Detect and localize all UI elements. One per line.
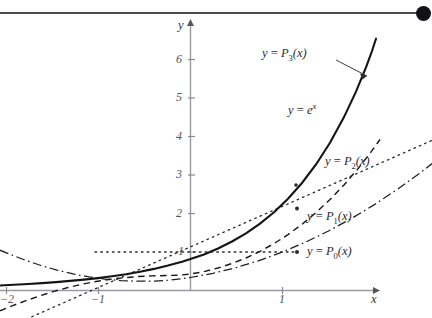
label-p3-name: P [281, 46, 289, 60]
label-ex-exp: x [312, 101, 316, 111]
x-tick-label-1: 1 [279, 292, 285, 307]
label-p2-lhs: y [325, 154, 331, 168]
label-p0-lhs: y [307, 244, 313, 258]
leader-line-p3 [336, 60, 367, 76]
label-ex-lhs: y [288, 103, 294, 117]
y-axis-label: y [178, 18, 184, 33]
label-ex-eq: = [297, 103, 304, 117]
marker-dot-p0 [295, 250, 299, 254]
label-p0: y = P0(x) [307, 244, 352, 261]
y-tick-marks [188, 60, 195, 253]
label-p2: y = P2(x) [325, 154, 370, 171]
label-p2-arg: (x) [356, 154, 370, 168]
marker-dot-p2 [294, 183, 298, 187]
y-tick-label-6: 6 [176, 52, 182, 67]
curve-p2 [0, 164, 432, 282]
label-p3: y = P3(x) [262, 46, 307, 63]
label-p1: y = P1(x) [307, 209, 352, 226]
label-p0-name: P [326, 244, 334, 258]
y-tick-label-4: 4 [176, 129, 182, 144]
label-p2-name: P [344, 154, 352, 168]
label-p0-arg: (x) [338, 244, 352, 258]
label-p1-lhs: y [307, 209, 313, 223]
y-tick-label-2: 2 [176, 206, 182, 221]
label-p2-eq: = [334, 154, 341, 168]
label-exponential: y = ex [288, 101, 316, 118]
label-p1-name: P [326, 209, 334, 223]
label-p0-eq: = [316, 244, 323, 258]
y-tick-label-1: 1 [178, 244, 184, 259]
y-tick-label-5: 5 [176, 90, 182, 105]
label-p1-eq: = [316, 209, 323, 223]
x-tick-label-minus-2: −2 [0, 292, 14, 307]
label-p3-lhs: y [262, 46, 268, 60]
y-axis-arrow-icon [187, 19, 194, 26]
label-p1-arg: (x) [338, 209, 352, 223]
label-p3-arg: (x) [293, 46, 307, 60]
y-tick-label-3: 3 [176, 167, 182, 182]
marker-dot-p1 [295, 207, 299, 211]
label-p3-eq: = [271, 46, 278, 60]
x-tick-label-minus-1: −1 [91, 292, 105, 307]
x-axis-label: x [371, 292, 377, 307]
